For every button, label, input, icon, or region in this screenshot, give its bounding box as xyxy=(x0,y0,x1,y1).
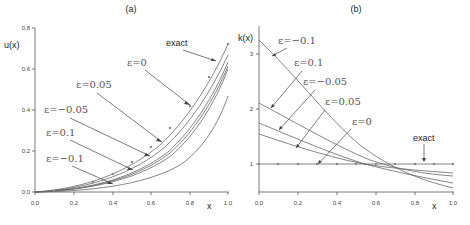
ytick: 3 xyxy=(250,51,254,57)
figure: (a) 0.0 0.2 0.4 0.6 0.8 0.0 0.2 0.4 0.6 … xyxy=(0,0,470,225)
label-eps-0.05: ε=0.05 xyxy=(325,96,361,107)
ytick: 2 xyxy=(250,106,254,112)
ytick: 1 xyxy=(250,161,254,167)
arrow-eps-0.1 xyxy=(271,71,302,108)
arrow-exact xyxy=(183,50,216,61)
y-axis-label: k(x) xyxy=(238,33,253,43)
xtick: 0.0 xyxy=(255,200,264,206)
label-eps-0: ε=0 xyxy=(352,116,372,127)
xtick: 1.0 xyxy=(449,200,458,206)
label-eps-m0.05: ε=−0.05 xyxy=(303,76,347,87)
y-ticks xyxy=(256,54,259,164)
label-eps-0.1: ε=0.1 xyxy=(294,57,323,68)
curve-eps-0 xyxy=(35,55,228,192)
label-exact: exact xyxy=(413,133,435,143)
arrowhead xyxy=(211,58,216,61)
x-axis-label: x xyxy=(207,201,212,211)
ytick: 0.6 xyxy=(22,66,31,72)
x-ticks xyxy=(259,192,453,195)
x-axis-label: x xyxy=(432,201,437,211)
y-axis-label: u(x) xyxy=(4,40,20,50)
xtick: 0.6 xyxy=(372,200,381,206)
xtick: 0.2 xyxy=(294,200,303,206)
xtick: 0.8 xyxy=(186,200,195,206)
xtick: 0.4 xyxy=(333,200,342,206)
label-exact: exact xyxy=(166,38,188,48)
xtick: 0.0 xyxy=(31,200,40,206)
label-eps-0.05: ε=0.05 xyxy=(76,79,112,90)
ytick: 0.8 xyxy=(22,25,31,31)
ytick: 0.0 xyxy=(22,189,31,195)
arrow-eps-0.05 xyxy=(296,110,325,148)
panel-a-title: (a) xyxy=(126,4,137,14)
panel-b-title: (b) xyxy=(351,4,362,14)
panel-a: (a) 0.0 0.2 0.4 0.6 0.8 0.0 0.2 0.4 0.6 … xyxy=(4,4,233,211)
label-eps-m0.1: ε=−0.1 xyxy=(278,35,316,46)
xtick: 0.4 xyxy=(109,200,118,206)
xtick: 0.8 xyxy=(411,200,420,206)
label-eps-0: ε=0 xyxy=(127,57,147,68)
arrowhead xyxy=(422,158,426,162)
ytick: 0.2 xyxy=(22,148,31,154)
arrow-eps-0 xyxy=(145,70,190,105)
arrow-eps-0.05 xyxy=(97,93,162,142)
curve-eps-m0.1 xyxy=(259,40,453,188)
label-eps-0.1: ε=0.1 xyxy=(46,127,75,138)
ytick: 0.4 xyxy=(22,107,31,113)
curves xyxy=(259,40,453,188)
arrowhead xyxy=(184,101,190,105)
xtick: 1.0 xyxy=(224,200,233,206)
xtick: 0.2 xyxy=(70,200,79,206)
y-ticks xyxy=(32,28,35,192)
label-eps-m0.05: ε=−0.05 xyxy=(44,104,88,115)
panel-b: (b) 1 2 3 0.0 0.2 0.4 0.6 0.8 1.0 k(x) x xyxy=(238,4,458,211)
label-eps-m0.1: ε=−0.1 xyxy=(46,153,84,164)
x-ticks xyxy=(35,192,228,195)
arrowhead xyxy=(271,104,275,108)
xtick: 0.6 xyxy=(147,200,156,206)
arrowhead xyxy=(156,138,162,142)
arrow-eps-0 xyxy=(318,129,351,164)
